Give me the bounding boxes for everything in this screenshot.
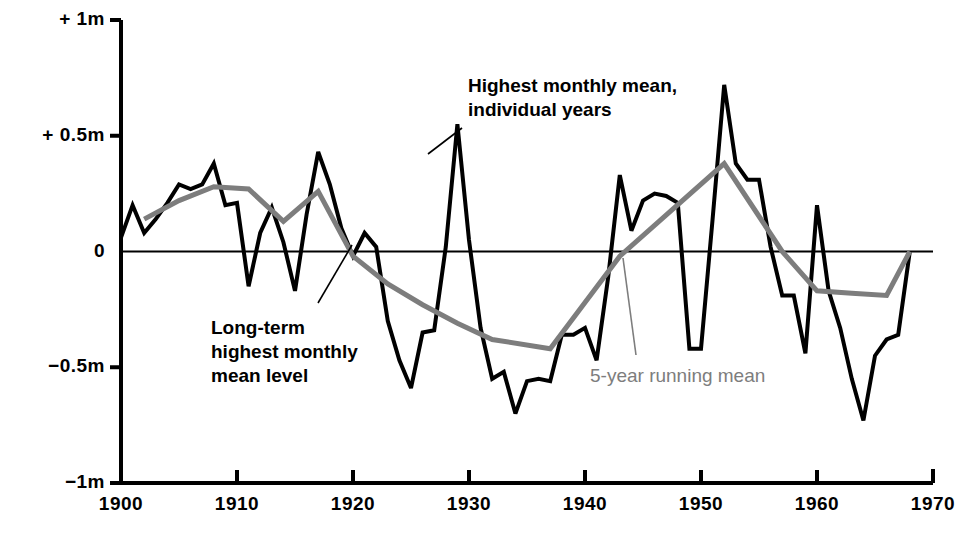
y-axis-label-4: −1m <box>65 471 105 493</box>
annot-5yr-running-mean: 5-year running mean <box>590 364 765 388</box>
y-axis-label-1: + 0.5m <box>42 124 105 146</box>
x-axis-label-2: 1920 <box>318 493 388 515</box>
x-axis-label-1: 1910 <box>202 493 272 515</box>
y-axis-label-0: + 1m <box>59 8 105 30</box>
annot-long-term-level-leader <box>318 245 352 303</box>
x-axis-label-4: 1940 <box>550 493 620 515</box>
x-axis-label-3: 1930 <box>434 493 504 515</box>
annot-highest-monthly-mean: Highest monthly mean, individual years <box>468 74 677 122</box>
chart-container: + 1m+ 0.5m0−0.5m−1m190019101920193019401… <box>0 0 961 551</box>
annot-long-term-level: Long-term highest monthly mean level <box>211 316 358 388</box>
x-axis-label-7: 1970 <box>898 493 961 515</box>
annot-5yr-running-mean-leader <box>623 258 636 355</box>
y-axis-label-3: −0.5m <box>48 355 105 377</box>
annotation-leader-lines <box>318 128 636 355</box>
y-axis-label-2: 0 <box>94 240 105 262</box>
x-axis-label-0: 1900 <box>86 493 156 515</box>
x-axis-label-5: 1950 <box>666 493 736 515</box>
x-axis-label-6: 1960 <box>782 493 852 515</box>
